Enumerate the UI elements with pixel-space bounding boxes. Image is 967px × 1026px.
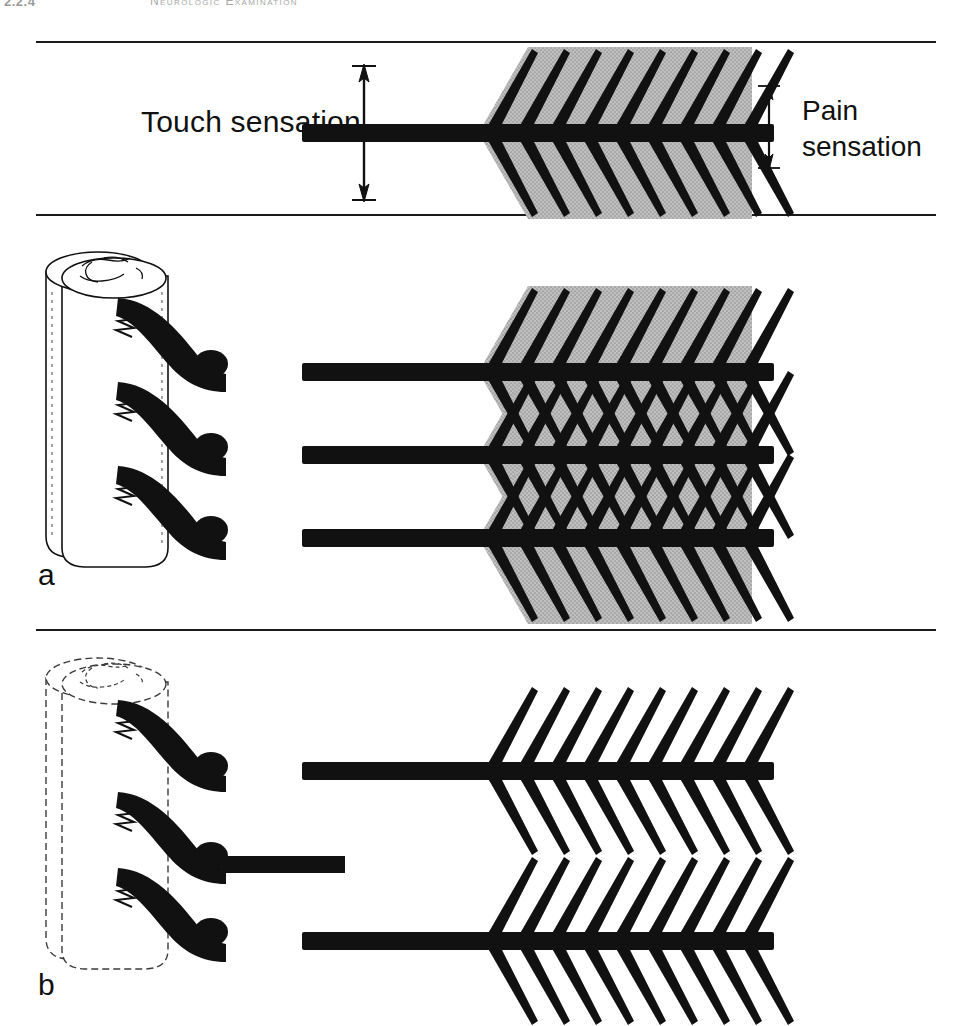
dorsal-root-ganglion-1 [194,752,228,780]
dorsal-root-ganglion-3 [194,918,228,946]
dorsal-root-ganglion-1 [194,350,228,378]
panel-b-illustration [46,658,794,1025]
figure-root: 2.2.4 Neurologic Examination Touch sensa… [0,0,967,1026]
dorsal-root-ganglion-3 [194,516,228,544]
panel-b-nerve-fibers [302,687,794,1025]
legend-fiber-group [302,47,794,219]
severed-nerve-stump [222,856,345,873]
dorsal-root-ganglion-2 [194,433,228,461]
panel-a-illustration [46,252,794,624]
nerve-fiber-1 [302,687,794,855]
anatomy-illustration [0,0,967,1026]
nerve-fiber-3 [302,857,794,1025]
